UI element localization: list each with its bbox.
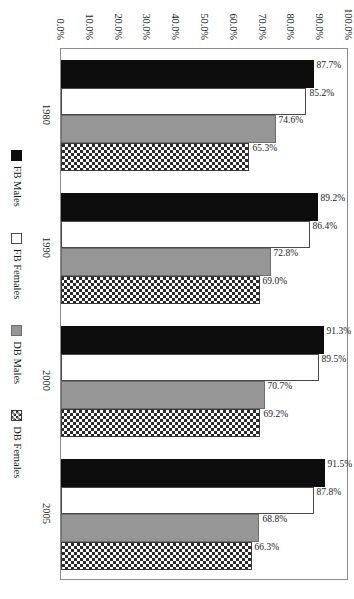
legend-item-dbf[interactable]: DB Females (12, 410, 23, 478)
y-axis-tick-label: 80.0% (285, 13, 296, 40)
bar-slot: 66.3% (61, 542, 347, 570)
bar-fbf-2005[interactable] (61, 487, 314, 515)
legend-item-dbm[interactable]: DB Males (12, 325, 23, 384)
bar-slot: 70.7% (61, 381, 347, 409)
bar-fbf-1990[interactable] (61, 221, 310, 249)
bar-slot: 69.2% (61, 409, 347, 437)
rotated-chart-stage: 0.0%10.0%20.0%30.0%40.0%50.0%60.0%70.0%8… (0, 0, 354, 599)
y-axis-tick-label: 100.0% (343, 8, 354, 40)
legend-item-fbm[interactable]: FB Males (12, 150, 23, 207)
legend-swatch-dbf-icon (12, 410, 23, 421)
bar-dbm-1990[interactable] (61, 248, 271, 276)
bar-dbf-2005[interactable] (61, 542, 252, 570)
bar-slot: 87.7% (61, 60, 347, 88)
bar-dbf-2000[interactable] (61, 409, 260, 437)
x-axis-category-labels: 1980199020002005 (32, 48, 54, 580)
y-axis-tick-label: 30.0% (141, 13, 152, 40)
plot-frame: 87.7%85.2%74.6%65.3%89.2%86.4%72.8%69.0%… (60, 48, 348, 580)
bar-slot: 68.8% (61, 514, 347, 542)
bar-group: 91.5%87.8%68.8%66.3% (61, 459, 347, 569)
bar-value-label: 89.5% (322, 354, 347, 364)
bar-value-label: 65.3% (252, 143, 277, 153)
bar-slot: 74.6% (61, 115, 347, 143)
bar-value-label: 70.7% (268, 382, 293, 392)
bar-group: 87.7%85.2%74.6%65.3% (61, 60, 347, 170)
bar-fbm-1980[interactable] (61, 60, 314, 88)
y-axis-tick-label: 10.0% (84, 13, 95, 40)
bar-slot: 69.0% (61, 276, 347, 304)
x-axis-tick-label-1980: 1980 (41, 104, 52, 125)
bar-value-label: 69.0% (263, 276, 288, 286)
bar-fbm-1990[interactable] (61, 193, 318, 221)
bar-value-label: 72.8% (274, 249, 299, 259)
bar-slot: 72.8% (61, 248, 347, 276)
bar-group: 89.2%86.4%72.8%69.0% (61, 193, 347, 303)
y-axis-tick-label: 70.0% (256, 13, 267, 40)
x-axis-tick-label-2005: 2005 (41, 503, 52, 524)
bar-value-label: 87.7% (317, 61, 342, 71)
bar-slot: 89.2% (61, 193, 347, 221)
legend-item-fbf[interactable]: FB Females (12, 233, 23, 299)
bar-value-label: 74.6% (279, 116, 304, 126)
bar-fbm-2000[interactable] (61, 326, 324, 354)
y-axis-tick-label: 20.0% (112, 13, 123, 40)
bar-fbf-1980[interactable] (61, 88, 306, 116)
y-axis-tick-label: 0.0% (55, 19, 66, 40)
bar-dbm-2000[interactable] (61, 381, 265, 409)
bar-slot: 89.5% (61, 354, 347, 382)
y-axis-tick-label: 40.0% (170, 13, 181, 40)
chart-legend: FB MalesFB FemalesDB MalesDB Females (6, 48, 28, 580)
y-axis-tick-labels: 0.0%10.0%20.0%30.0%40.0%50.0%60.0%70.0%8… (54, 0, 354, 46)
bar-slot: 87.8% (61, 487, 347, 515)
y-axis-tick-label: 90.0% (314, 13, 325, 40)
legend-label: FB Males (12, 166, 23, 207)
bar-value-label: 87.8% (317, 487, 342, 497)
bar-slot: 91.5% (61, 459, 347, 487)
bar-value-label: 85.2% (309, 88, 334, 98)
bar-value-label: 68.8% (262, 515, 287, 525)
plot-area: 87.7%85.2%74.6%65.3%89.2%86.4%72.8%69.0%… (61, 49, 347, 579)
bar-slot: 91.3% (61, 326, 347, 354)
bar-dbm-2005[interactable] (61, 514, 259, 542)
x-axis-tick-label-1990: 1990 (41, 237, 52, 258)
bar-dbm-1980[interactable] (61, 115, 276, 143)
bar-dbf-1980[interactable] (61, 143, 249, 171)
bar-fbm-2005[interactable] (61, 459, 325, 487)
y-axis-tick-label: 50.0% (199, 13, 210, 40)
bar-slot: 85.2% (61, 88, 347, 116)
y-axis-tick-label: 60.0% (228, 13, 239, 40)
bar-value-label: 69.2% (263, 409, 288, 419)
x-axis-tick-label-2000: 2000 (41, 370, 52, 391)
legend-label: DB Females (12, 426, 23, 478)
bar-value-label: 91.5% (328, 460, 353, 470)
bar-chart: 0.0%10.0%20.0%30.0%40.0%50.0%60.0%70.0%8… (0, 0, 354, 599)
bar-fbf-2000[interactable] (61, 354, 319, 382)
bar-value-label: 89.2% (321, 194, 346, 204)
bar-value-label: 66.3% (255, 542, 280, 552)
bar-group: 91.3%89.5%70.7%69.2% (61, 326, 347, 436)
legend-swatch-dbm-icon (12, 325, 23, 336)
bar-value-label: 86.4% (313, 221, 338, 231)
bar-slot: 86.4% (61, 221, 347, 249)
bar-slot: 65.3% (61, 143, 347, 171)
legend-swatch-fbf-icon (12, 233, 23, 244)
legend-label: DB Males (12, 341, 23, 384)
bar-value-label: 91.3% (327, 327, 352, 337)
legend-label: FB Females (12, 249, 23, 299)
bar-dbf-1990[interactable] (61, 276, 260, 304)
legend-swatch-fbm-icon (12, 150, 23, 161)
